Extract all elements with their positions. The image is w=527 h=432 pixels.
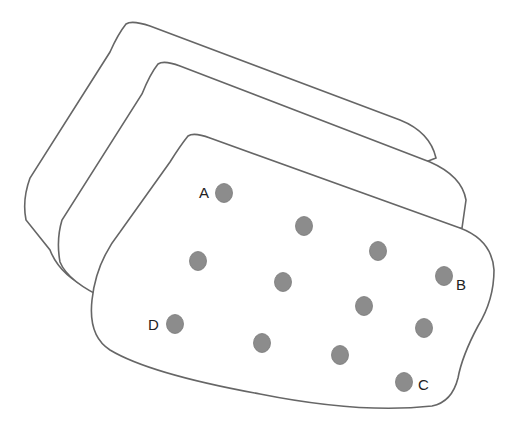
point — [275, 273, 292, 292]
point — [416, 319, 433, 338]
stacked-layers-diagram: A B C D — [0, 0, 527, 432]
point — [370, 242, 387, 261]
label-a: A — [199, 184, 209, 201]
point — [296, 217, 313, 236]
point-c — [396, 373, 413, 392]
label-b: B — [456, 276, 466, 293]
point-a — [216, 184, 233, 203]
point-b — [436, 267, 453, 286]
label-c: C — [418, 376, 429, 393]
point — [190, 252, 207, 271]
point — [332, 346, 349, 365]
point-d — [167, 315, 184, 334]
point — [356, 297, 373, 316]
label-d: D — [148, 316, 159, 333]
point — [254, 334, 271, 353]
